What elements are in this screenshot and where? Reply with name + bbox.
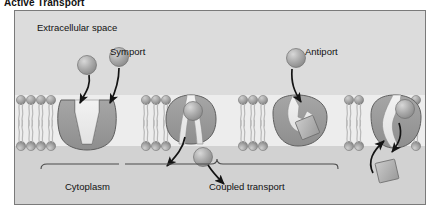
solute-sphere-5 (287, 49, 306, 68)
label-symport: Symport (110, 46, 145, 57)
solute-sphere-3 (184, 102, 203, 121)
label-antiport: Antiport (305, 46, 338, 57)
solute-square-2 (375, 159, 399, 183)
label-cytoplasm: Cytoplasm (65, 181, 110, 192)
solute-sphere-1 (78, 56, 97, 75)
solute-sphere-6 (396, 100, 415, 119)
membrane-scene (15, 11, 425, 204)
diagram-frame: Extracellular space Symport Antiport Cyt… (14, 10, 426, 205)
label-coupled-transport: Coupled transport (209, 181, 285, 192)
label-extracellular-space: Extracellular space (37, 22, 117, 33)
diagram-root: Active Transport (0, 0, 437, 213)
antiport-transporter-release (371, 95, 421, 148)
uniport-open-transporter (58, 100, 117, 150)
cytoplasm-region (15, 146, 425, 204)
figure-title: Active Transport (4, 0, 85, 8)
